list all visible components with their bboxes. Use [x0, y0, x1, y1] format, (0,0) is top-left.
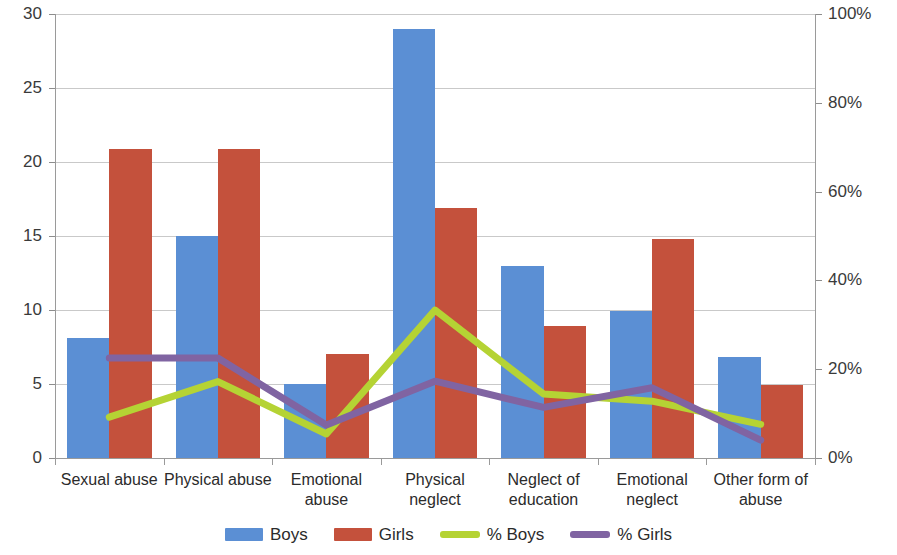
- right-axis-line: [815, 14, 816, 459]
- bar-girls-3: [435, 208, 477, 458]
- gridline: [55, 162, 815, 163]
- right-axis-tick-label: 60%: [828, 183, 894, 200]
- category-tick: [706, 459, 707, 465]
- right-axis-tick: [816, 458, 822, 459]
- bar-boys-2: [284, 384, 326, 458]
- legend-line-icon: [440, 531, 480, 538]
- bar-boys-5: [610, 311, 652, 458]
- bar-girls-2: [326, 354, 368, 458]
- left-axis-tick-label: 30: [0, 5, 42, 22]
- left-axis-tick-label: 20: [0, 153, 42, 170]
- category-tick: [489, 459, 490, 465]
- bar-boys-4: [501, 266, 543, 458]
- category-label-5: Emotional neglect: [598, 470, 707, 510]
- left-axis-line: [55, 14, 56, 459]
- legend-bar-icon: [334, 528, 372, 541]
- right-axis-tick-label: 20%: [828, 360, 894, 377]
- right-axis-tick-label: 100%: [828, 5, 894, 22]
- left-axis-tick-label: 15: [0, 227, 42, 244]
- abuse-type-by-gender-chart: 051015202530 0%20%40%60%80%100% Sexual a…: [0, 0, 897, 555]
- category-tick: [815, 459, 816, 465]
- right-axis-tick: [816, 280, 822, 281]
- bar-girls-4: [544, 326, 586, 458]
- right-axis-tick-label: 80%: [828, 94, 894, 111]
- legend-item--girls[interactable]: % Girls: [570, 526, 672, 543]
- legend-item-girls[interactable]: Girls: [334, 526, 414, 543]
- chart-legend: BoysGirls% Boys% Girls: [0, 526, 897, 543]
- category-label-0: Sexual abuse: [55, 470, 164, 490]
- legend-line-icon: [570, 531, 610, 538]
- bar-boys-3: [393, 29, 435, 458]
- legend-label: Boys: [270, 526, 308, 543]
- bar-girls-5: [652, 239, 694, 458]
- right-axis-tick: [816, 369, 822, 370]
- legend-label: % Boys: [487, 526, 545, 543]
- right-axis-tick: [816, 103, 822, 104]
- gridline: [55, 88, 815, 89]
- bar-boys-6: [718, 357, 760, 458]
- category-tick: [55, 459, 56, 465]
- left-axis-tick-label: 5: [0, 375, 42, 392]
- right-axis-tick-label: 40%: [828, 271, 894, 288]
- left-axis-tick-label: 25: [0, 79, 42, 96]
- category-tick: [164, 459, 165, 465]
- category-label-1: Physical abuse: [164, 470, 273, 490]
- bar-girls-6: [761, 385, 803, 458]
- right-axis-tick: [816, 14, 822, 15]
- category-label-2: Emotional abuse: [272, 470, 381, 510]
- legend-bar-icon: [225, 528, 263, 541]
- bar-boys-1: [176, 236, 218, 458]
- category-tick: [381, 459, 382, 465]
- left-axis-tick-label: 10: [0, 301, 42, 318]
- right-axis-tick: [816, 192, 822, 193]
- gridline: [55, 14, 815, 15]
- bottom-axis-line: [55, 458, 816, 459]
- legend-label: % Girls: [617, 526, 672, 543]
- category-label-4: Neglect of education: [489, 470, 598, 510]
- legend-label: Girls: [379, 526, 414, 543]
- legend-item--boys[interactable]: % Boys: [440, 526, 545, 543]
- bar-boys-0: [67, 338, 109, 458]
- category-label-6: Other form of abuse: [706, 470, 815, 510]
- bar-girls-1: [218, 149, 260, 458]
- category-tick: [598, 459, 599, 465]
- category-tick: [272, 459, 273, 465]
- right-axis-tick-label: 0%: [828, 449, 894, 466]
- legend-item-boys[interactable]: Boys: [225, 526, 308, 543]
- category-label-3: Physical neglect: [381, 470, 490, 510]
- left-axis-tick-label: 0: [0, 449, 42, 466]
- bar-girls-0: [109, 149, 151, 458]
